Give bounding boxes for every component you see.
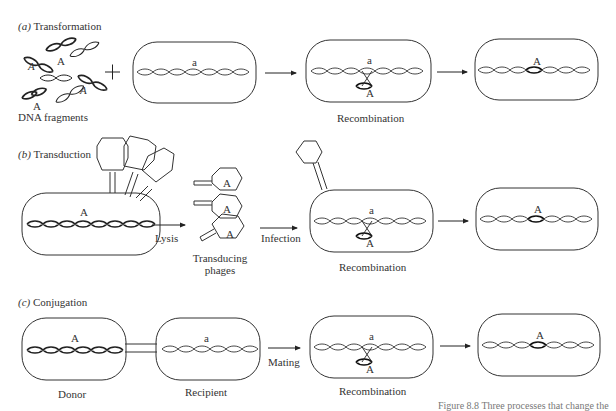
allele-label: a [192,56,197,68]
allele-label: A [80,206,88,218]
recipient-label: Recipient [185,386,227,398]
plus-icon [105,65,120,80]
allele-label: A [80,84,87,96]
mating-label: Mating [268,356,300,368]
chromosome-b-donor [27,221,155,227]
recombination-label: Recombination [339,261,406,273]
allele-label: A [223,177,231,189]
figure-caption: Figure 8.8 Three processes that change t… [438,400,609,411]
allele-label: A [366,87,374,99]
result-cell-c [478,314,600,376]
allele-label: A [366,363,374,375]
recipient-cell-a [133,42,256,103]
lysis-label: Lysis [155,232,178,244]
allele-label: A [533,55,541,67]
recipient-cell-c [156,318,260,380]
allele-label: A [534,203,542,215]
allele-label: A [223,203,231,215]
allele-label: a [369,330,374,342]
infection-label: Infection [261,232,301,244]
allele-label: A [536,329,544,341]
phages-emerging [97,136,174,201]
allele-label: a [204,332,209,344]
allele-label: A [28,60,35,72]
allele-label: A [71,332,79,344]
panel-c-title: (c) Conjugation [18,296,87,308]
allele-label: A [366,237,374,249]
recombination-label: Recombination [339,385,406,397]
recombination-label: Recombination [337,112,404,124]
infecting-phage [296,141,327,190]
conjugation-bridge [125,344,157,352]
panel-b-title: (b) Transduction [18,148,91,160]
transducing-phages [194,168,244,241]
result-cell-b [476,188,598,250]
allele-label: A [57,55,65,67]
allele-label: A [226,228,234,240]
allele-label: a [367,54,372,66]
panel-a-title: (a) Transformation [18,20,101,32]
transducing-phages-label: Transducingphages [192,252,248,276]
allele-label: a [369,204,374,216]
chromosome-a-recipient [137,69,249,75]
dna-fragments-label: DNA fragments [18,111,88,123]
donor-label: Donor [58,388,86,400]
